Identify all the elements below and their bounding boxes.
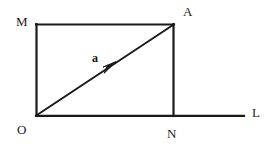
label-point-M: M	[16, 15, 28, 28]
label-point-L: L	[252, 106, 260, 119]
label-vector-a: a	[92, 52, 98, 64]
vector-diagram-figure: M A O N L a	[0, 0, 275, 150]
label-point-O: O	[17, 123, 27, 136]
vector-a-arrowhead	[103, 62, 116, 74]
diagram-canvas	[0, 0, 275, 150]
label-point-N: N	[167, 127, 177, 140]
label-point-A: A	[183, 5, 193, 18]
